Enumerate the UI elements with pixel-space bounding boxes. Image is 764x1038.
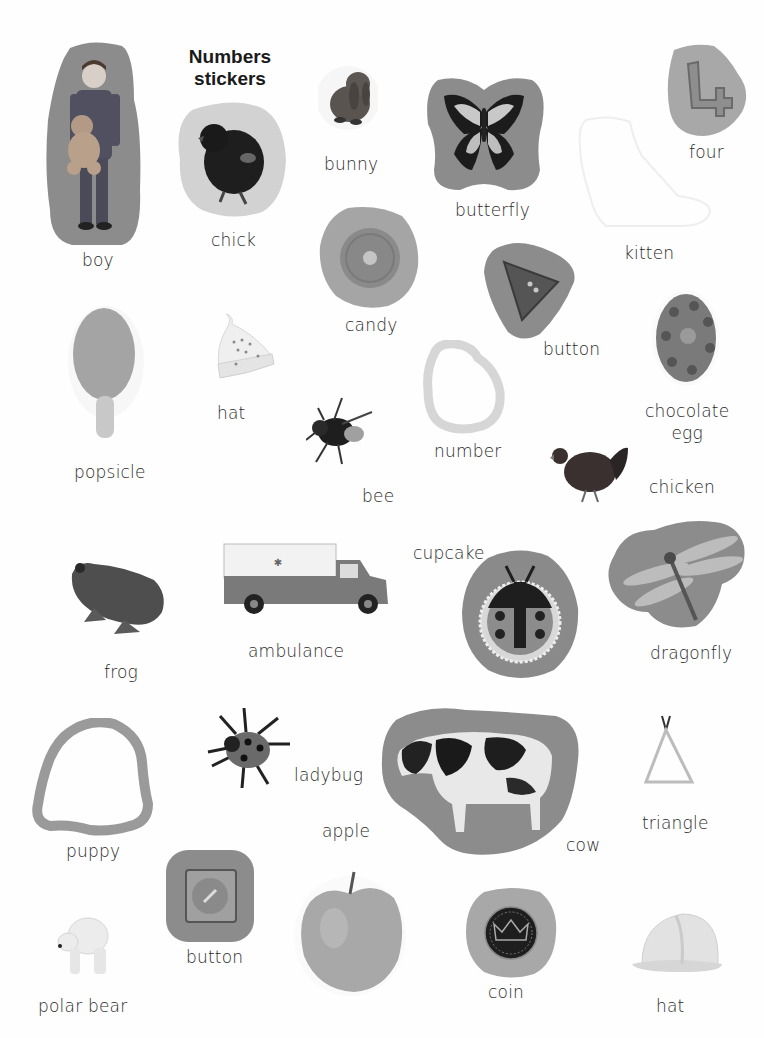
puppy-label: puppy (66, 841, 120, 861)
triangle-sticker[interactable] (640, 712, 706, 802)
number-sticker[interactable] (422, 340, 508, 438)
chocolate-egg-label: chocolate egg (645, 400, 729, 444)
button-triangle-label: button (543, 339, 600, 359)
butterfly-sticker[interactable] (424, 74, 546, 194)
boy-label: boy (82, 250, 114, 270)
chick-sticker[interactable] (172, 100, 290, 220)
button-square-sticker[interactable] (166, 850, 254, 942)
bunny-sticker[interactable] (318, 62, 378, 134)
button-icon (186, 870, 236, 922)
ambulance-sticker[interactable]: ✱ (220, 540, 392, 616)
polar-bear-icon (58, 918, 108, 974)
chocolate-egg-sticker[interactable] (652, 290, 722, 386)
title-line-1: Numbers (170, 46, 290, 68)
chicken-label: chicken (649, 477, 715, 497)
number-label: number (434, 441, 502, 461)
apple-sticker[interactable] (294, 868, 406, 998)
cow-label: cow (566, 835, 600, 855)
frog-icon (72, 563, 164, 634)
hard-hat-icon (632, 914, 722, 972)
polar-bear-label: polar bear (38, 996, 127, 1016)
button-square-label: button (186, 947, 243, 967)
dragonfly-label: dragonfly (650, 643, 732, 663)
chick-label: chick (211, 230, 256, 250)
boy-sticker[interactable] (42, 40, 146, 248)
candy-label: candy (345, 315, 397, 335)
butterfly-label: butterfly (455, 200, 530, 220)
button-triangle-sticker[interactable] (482, 242, 578, 342)
popsicle-sticker[interactable] (66, 302, 146, 442)
chicken-sticker[interactable] (546, 438, 632, 508)
triangle-label: triangle (642, 813, 709, 833)
chicken-icon (550, 448, 628, 502)
puppy-sticker[interactable] (30, 718, 156, 842)
kitten-label: kitten (624, 243, 674, 263)
bee-icon (306, 398, 372, 464)
cupcake-sticker[interactable] (458, 548, 584, 682)
polar-bear-sticker[interactable] (54, 906, 114, 980)
frog-label: frog (104, 662, 138, 682)
ambulance-label: ambulance (248, 641, 344, 661)
coin-sticker[interactable] (464, 886, 558, 980)
bee-sticker[interactable] (306, 394, 376, 466)
chocolate-egg-icon (656, 294, 716, 382)
triangle-icon (646, 716, 692, 782)
title-line-2: stickers (170, 68, 290, 90)
bee-label: bee (362, 486, 394, 506)
hat-knit-label: hat (217, 403, 245, 423)
kitten-sticker[interactable] (570, 116, 720, 232)
ladybug-label: ladybug (294, 765, 363, 785)
dragonfly-sticker[interactable] (604, 516, 746, 632)
ambulance-icon: ✱ (224, 544, 388, 614)
popsicle-icon (73, 308, 135, 438)
candy-icon (340, 228, 400, 288)
coin-label: coin (488, 982, 524, 1002)
apple-label: apple (322, 821, 370, 841)
bunny-label: bunny (324, 154, 378, 174)
ladybug-sticker[interactable] (206, 704, 292, 790)
svg-text:✱: ✱ (274, 557, 282, 568)
ladybug-icon (208, 708, 290, 788)
knit-hat-icon (218, 314, 274, 378)
hard-hat-sticker[interactable] (632, 902, 724, 976)
coin-icon (485, 907, 537, 959)
cow-sticker[interactable] (376, 700, 580, 858)
page-title: Numbers stickers (170, 46, 290, 90)
candy-sticker[interactable] (318, 206, 420, 310)
frog-sticker[interactable] (64, 556, 170, 640)
chocolate-egg-label-line-2: egg (645, 422, 729, 444)
hat-knit-sticker[interactable] (214, 314, 276, 380)
chocolate-egg-label-line-1: chocolate (645, 400, 729, 422)
sticker-sheet: Numbers stickers boy (0, 0, 764, 1038)
popsicle-label: popsicle (74, 462, 146, 482)
hard-hat-label: hat (656, 996, 684, 1016)
